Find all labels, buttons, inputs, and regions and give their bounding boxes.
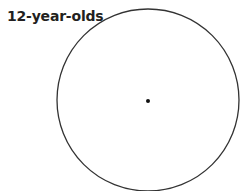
- center-point: [146, 99, 150, 103]
- circle-diagram: [0, 0, 241, 191]
